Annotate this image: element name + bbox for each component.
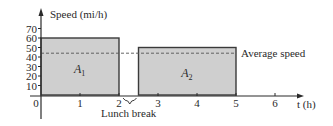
speed-time-chart: A1A2 10203040506070 0123456 Speed (mi/h)… bbox=[0, 0, 333, 126]
average-speed-label: Average speed bbox=[241, 47, 306, 59]
x-tick-label: 6 bbox=[272, 97, 278, 109]
bars: A1A2 bbox=[41, 38, 236, 95]
y-axis-title: Speed (mi/h) bbox=[50, 8, 107, 21]
y-tick-label: 70 bbox=[26, 23, 38, 35]
x-axis-title: t (h) bbox=[297, 98, 316, 111]
x-tick-label: 5 bbox=[233, 97, 239, 109]
x-tick-label: 0 bbox=[33, 97, 39, 109]
x-tick-label: 4 bbox=[194, 97, 200, 109]
y-axis-ticks: 10203040506070 bbox=[26, 23, 41, 92]
lunch-break-brace-icon bbox=[123, 98, 137, 104]
x-tick-label: 1 bbox=[77, 97, 83, 109]
y-axis-arrow-icon bbox=[39, 8, 44, 16]
annotations bbox=[123, 98, 137, 104]
lunch-break-label: Lunch break bbox=[101, 107, 157, 119]
